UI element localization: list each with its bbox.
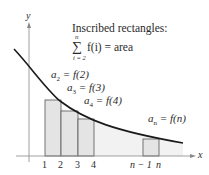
rect-3-4 <box>78 119 94 156</box>
x-tick-1: 1 <box>42 160 47 170</box>
y-axis-arrow-icon <box>27 22 31 28</box>
x-axis-arrow-icon <box>190 154 196 158</box>
rect-2-3 <box>61 111 78 156</box>
x-tick-3: 3 <box>75 160 80 170</box>
x-tick-n: n <box>156 160 161 170</box>
rect-n-1-n <box>143 139 159 156</box>
sigma-icon: ∑ <box>72 40 82 54</box>
diagram-title: Inscribed rectangles: <box>72 23 167 35</box>
sum-lower-limit: i = 2 <box>73 55 86 62</box>
x-axis-label: x <box>198 150 202 160</box>
x-tick-n-minus-1: n − 1 <box>130 160 152 170</box>
x-tick-4: 4 <box>91 160 96 170</box>
rect-1-2 <box>45 100 61 156</box>
y-axis-label: y <box>26 11 30 21</box>
annotation-a4: a4 = f(4) <box>84 95 122 109</box>
sum-expression: f(i) = area <box>87 42 133 54</box>
x-tick-2: 2 <box>58 160 63 170</box>
annotation-an: an = f(n) <box>148 113 186 127</box>
